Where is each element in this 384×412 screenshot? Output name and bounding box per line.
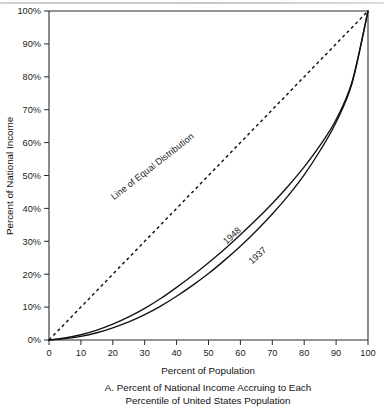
x-axis-title: Percent of Population xyxy=(161,365,255,376)
series-group xyxy=(49,11,368,340)
series-line-of-equal-distribution xyxy=(49,11,368,340)
x-tick-label-90: 90 xyxy=(331,348,341,358)
y-tick-label-70: 70% xyxy=(23,105,41,115)
x-tick-label-60: 60 xyxy=(235,348,245,358)
figure-caption: A. Percent of National Income Accruing t… xyxy=(105,382,311,406)
chart-canvas: 0% 10% 20% 30% 40% 50% 60% 70% 80% 90% 1… xyxy=(0,0,384,412)
x-tick-label-0: 0 xyxy=(46,348,51,358)
y-tick-label-90: 90% xyxy=(23,39,41,49)
y-tick-label-50: 50% xyxy=(23,171,41,181)
x-tick-label-70: 70 xyxy=(267,348,277,358)
y-tick-label-80: 80% xyxy=(23,72,41,82)
x-tick-label-50: 50 xyxy=(203,348,213,358)
x-tick-label-80: 80 xyxy=(299,348,309,358)
y-tick-label-40: 40% xyxy=(23,204,41,214)
lorenz-curve-figure: 0% 10% 20% 30% 40% 50% 60% 70% 80% 90% 1… xyxy=(0,0,384,412)
x-tick-label-100: 100 xyxy=(360,348,375,358)
y-tick-labels: 0% 10% 20% 30% 40% 50% 60% 70% 80% 90% 1… xyxy=(18,6,42,345)
y-tick-label-0: 0% xyxy=(28,335,41,345)
y-tick-label-20: 20% xyxy=(23,270,41,280)
x-tick-label-10: 10 xyxy=(76,348,86,358)
x-tick-label-20: 20 xyxy=(108,348,118,358)
series-annotations: Line of Equal Distribution 1948 1937 xyxy=(109,131,268,266)
caption-line-2: Percentile of United States Population xyxy=(125,395,290,406)
annotation-line-of-equal-distribution: Line of Equal Distribution xyxy=(109,131,196,202)
y-tick-marks xyxy=(44,11,49,340)
annotation-1937: 1937 xyxy=(247,245,269,266)
x-tick-label-30: 30 xyxy=(140,348,150,358)
x-tick-marks xyxy=(49,340,368,345)
y-axis-title: Percent of National Income xyxy=(4,116,15,235)
y-tick-label-100: 100% xyxy=(18,6,42,16)
y-tick-label-10: 10% xyxy=(23,302,41,312)
x-tick-labels: 0 10 20 30 40 50 60 70 80 90 100 xyxy=(46,348,375,358)
caption-line-1: A. Percent of National Income Accruing t… xyxy=(105,382,311,393)
y-tick-label-30: 30% xyxy=(23,237,41,247)
y-tick-label-60: 60% xyxy=(23,138,41,148)
x-tick-label-40: 40 xyxy=(171,348,181,358)
